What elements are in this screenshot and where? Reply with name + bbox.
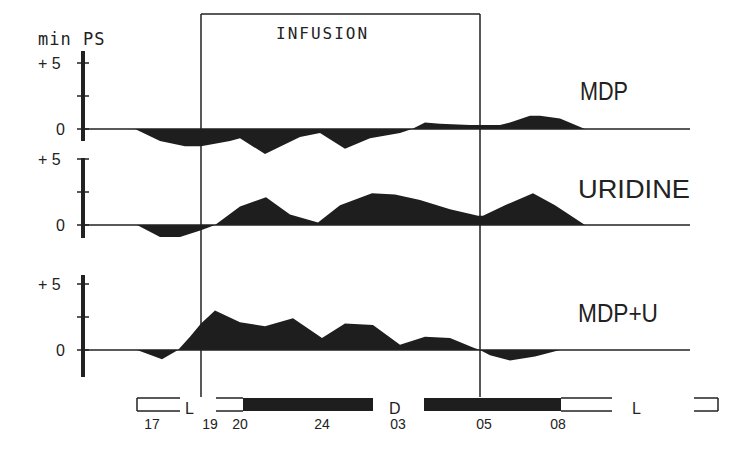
time-tick-label: 03 [390,416,406,432]
infusion-label: INFUSION [276,24,369,43]
ytick-label: 0 [56,342,65,359]
ytick-label: + 5 [38,151,61,168]
time-tick-label: 05 [476,416,492,432]
series-label: URIDINE [578,174,690,204]
time-tick-label: 08 [550,416,566,432]
ytick-label: 0 [56,121,65,138]
panels: + 50MDP+ 50URIDINE+ 50MDP+U [38,51,690,377]
light-segment [216,398,243,411]
time-tick-label: 17 [144,416,160,432]
time-tick-label: 20 [232,416,248,432]
ytick-label: 0 [56,217,65,234]
series-label: MDP [580,76,628,106]
dark-segment [243,398,373,411]
y-axis-label: min PS [38,29,105,49]
time-tick-label: 19 [202,416,218,432]
chart: min PS INFUSION + 50MDP+ 50URIDINE+ 50MD… [0,0,730,458]
dark-label: D [389,400,401,417]
ytick-label: + 5 [38,276,61,293]
light-label-right: L [632,400,641,417]
ytick-label: + 5 [38,55,61,72]
light-segment [694,398,718,411]
panel-mdp-u: + 50MDP+U [38,275,690,377]
light-dark-bar [137,398,718,411]
light-segment [561,398,612,411]
light-segment [137,398,180,411]
time-tick-label: 24 [314,416,330,432]
time-axis: 17192024030508 [144,416,566,432]
area-fill [83,116,690,154]
series-label: MDP+U [578,298,658,328]
light-label-left: L [185,400,194,417]
panel-mdp: + 50MDP [38,51,690,154]
dark-segment [424,398,561,411]
panel-uridine: + 50URIDINE [38,151,690,238]
